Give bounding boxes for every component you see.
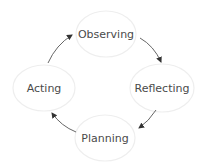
node-reflecting: Reflecting: [130, 64, 194, 112]
arrow-reflecting-to-planning: [139, 110, 156, 128]
cycle-diagram: Observing Reflecting Planning Acting: [0, 0, 209, 168]
node-planning-label: Planning: [81, 132, 128, 145]
node-planning: Planning: [75, 115, 135, 161]
node-observing-label: Observing: [78, 28, 134, 41]
arrow-acting-to-observing: [48, 35, 72, 63]
node-reflecting-label: Reflecting: [135, 82, 190, 95]
node-acting: Acting: [13, 65, 75, 111]
arrow-observing-to-reflecting: [140, 38, 161, 62]
arrow-planning-to-acting: [52, 113, 76, 132]
node-acting-label: Acting: [27, 82, 62, 95]
node-observing: Observing: [76, 11, 136, 57]
